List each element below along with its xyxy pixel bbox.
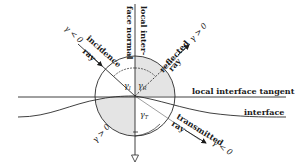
normal-label-line1: local inter- — [139, 6, 149, 55]
normal-label-line2: face normal — [125, 6, 135, 59]
incidence-sign-label: γ < 0 — [63, 24, 85, 45]
lower-left-sign-label: γ > 0 — [91, 122, 112, 144]
angle-label-transmitted: γT — [140, 110, 149, 120]
angle-label-incidence: γI — [124, 81, 132, 91]
reflected-sign-label: γ > 0 — [188, 21, 209, 43]
tangent-label: local interface tangent — [192, 86, 295, 96]
ray-interface-diagram: γI γR γT local inter- face normal incide… — [0, 0, 296, 166]
angle-arc-incidence — [114, 68, 135, 76]
interface-label: interface — [244, 107, 284, 117]
normal-arrow-icon — [132, 155, 139, 162]
